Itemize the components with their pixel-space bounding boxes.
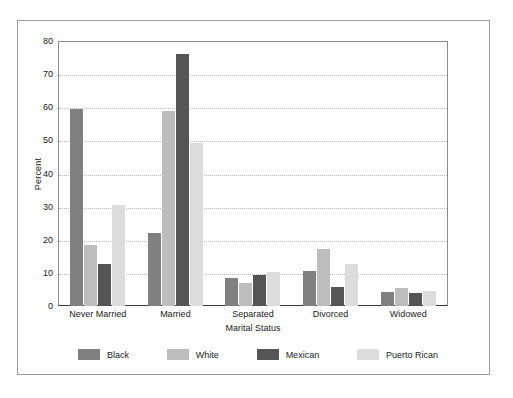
plot-wrapper: Percent Never MarriedMarriedSeparatedDiv… xyxy=(18,21,491,376)
y-tick-label: 70 xyxy=(43,69,53,79)
bar xyxy=(239,283,252,306)
x-axis-tick-labels: Never MarriedMarriedSeparatedDivorcedWid… xyxy=(59,309,447,319)
legend-label: Black xyxy=(107,350,129,360)
legend-label: White xyxy=(196,350,219,360)
bar xyxy=(98,264,111,306)
bar xyxy=(303,271,316,306)
y-axis-title: Percent xyxy=(33,134,43,214)
y-tick-label: 30 xyxy=(43,202,53,212)
legend-item[interactable]: Puerto Rican xyxy=(357,349,438,360)
bar xyxy=(395,288,408,306)
x-tick-label: Widowed xyxy=(369,309,447,319)
bar xyxy=(381,292,394,306)
legend-swatch-icon xyxy=(167,349,189,360)
bar xyxy=(84,245,97,306)
bar-group xyxy=(369,41,447,306)
x-tick-label: Never Married xyxy=(59,309,137,319)
chart-legend: BlackWhiteMexicanPuerto Rican xyxy=(78,349,438,360)
y-tick-label: 60 xyxy=(43,102,53,112)
y-tick-label: 20 xyxy=(43,235,53,245)
y-tick-label: 40 xyxy=(43,169,53,179)
bar-group xyxy=(214,41,292,306)
bar xyxy=(253,275,266,306)
legend-item[interactable]: Mexican xyxy=(257,349,320,360)
bar-series-container xyxy=(59,41,447,306)
bar-group xyxy=(59,41,137,306)
y-tick-label: 10 xyxy=(43,268,53,278)
bar xyxy=(317,249,330,306)
bar-group xyxy=(292,41,370,306)
legend-label: Puerto Rican xyxy=(386,350,438,360)
chart-figure: Percent Never MarriedMarriedSeparatedDiv… xyxy=(17,20,490,375)
legend-swatch-icon xyxy=(78,349,100,360)
legend-item[interactable]: White xyxy=(167,349,219,360)
x-axis-title: Marital Status xyxy=(59,323,447,333)
bar-group xyxy=(137,41,215,306)
bar xyxy=(225,278,238,306)
bar xyxy=(148,233,161,306)
bar xyxy=(331,287,344,306)
legend-swatch-icon xyxy=(257,349,279,360)
bar xyxy=(423,291,436,306)
bar xyxy=(162,111,175,306)
legend-item[interactable]: Black xyxy=(78,349,129,360)
bar xyxy=(345,264,358,306)
y-tick-label: 50 xyxy=(43,135,53,145)
bar xyxy=(409,293,422,306)
bar xyxy=(112,205,125,306)
x-tick-label: Married xyxy=(137,309,215,319)
legend-label: Mexican xyxy=(286,350,320,360)
legend-swatch-icon xyxy=(357,349,379,360)
bar xyxy=(267,272,280,306)
y-tick-label: 80 xyxy=(43,36,53,46)
bar xyxy=(70,109,83,306)
x-tick-label: Divorced xyxy=(292,309,370,319)
bar xyxy=(176,54,189,306)
y-tick-label: 0 xyxy=(48,301,53,311)
x-tick-label: Separated xyxy=(214,309,292,319)
bar xyxy=(190,143,203,306)
